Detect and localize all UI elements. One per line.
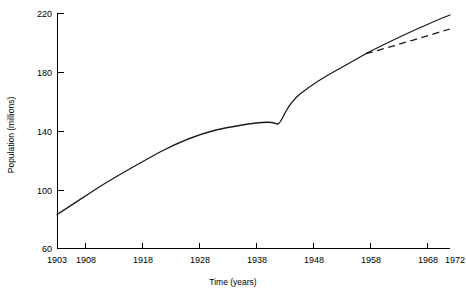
x-tick-label-1968: 1968 — [418, 255, 438, 265]
y-axis-tick-labels: 220 180 140 100 60 — [37, 9, 52, 254]
x-axis-tick-labels: 1903 1908 1918 1928 1938 1948 1958 1968 … — [47, 255, 465, 265]
y-tick-label-220: 220 — [37, 9, 52, 19]
y-tick-label-140: 140 — [37, 127, 52, 137]
series-solid-population — [57, 15, 450, 215]
x-tick-label-1903: 1903 — [47, 255, 67, 265]
x-axis-ticks — [86, 243, 428, 249]
y-axis-ticks — [58, 14, 64, 191]
plot-area: 220 180 140 100 60 1903 1908 1918 1928 1… — [6, 9, 465, 287]
x-tick-label-1908: 1908 — [76, 255, 96, 265]
y-tick-label-100: 100 — [37, 186, 52, 196]
x-tick-label-1938: 1938 — [247, 255, 267, 265]
x-tick-label-1948: 1948 — [304, 255, 324, 265]
y-tick-label-60: 60 — [42, 244, 52, 254]
y-tick-label-180: 180 — [37, 68, 52, 78]
y-axis-title: Population (millions) — [6, 97, 16, 174]
population-line-chart: 220 180 140 100 60 1903 1908 1918 1928 1… — [0, 0, 466, 293]
x-tick-label-1972: 1972 — [445, 255, 465, 265]
x-tick-label-1928: 1928 — [190, 255, 210, 265]
chart-canvas: 220 180 140 100 60 1903 1908 1918 1928 1… — [0, 0, 466, 293]
x-tick-label-1918: 1918 — [133, 255, 153, 265]
x-axis-title: Time (years) — [209, 277, 257, 287]
x-tick-label-1958: 1958 — [361, 255, 381, 265]
